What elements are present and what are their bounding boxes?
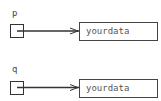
arrow-p (17, 28, 79, 34)
arrow-q (17, 85, 79, 91)
pointer-arrows (0, 0, 161, 101)
